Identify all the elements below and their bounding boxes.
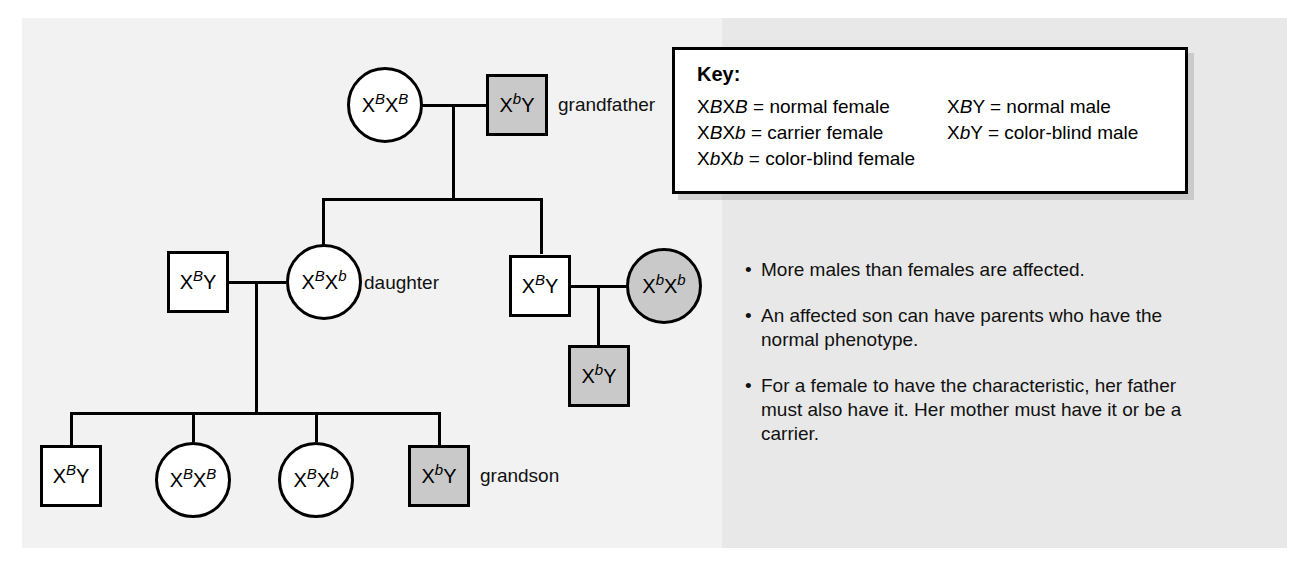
label-daughter: daughter [364, 272, 439, 294]
sibship-drop-g2-daughter [322, 198, 325, 250]
genotype-g2-daughter: XBXb [301, 271, 346, 294]
genotype-g1-grandfather: XbY [499, 94, 534, 117]
key-title: Key: [697, 63, 740, 86]
individual-g3-child-right[interactable]: XbY [568, 345, 630, 407]
bullet-icon: • [745, 374, 752, 398]
individual-g3-child2[interactable]: XBXB [155, 442, 231, 518]
genotype-g3-child4: XbY [421, 465, 456, 488]
genotype-g3-child1: XBY [53, 465, 90, 488]
note-item-1: • More males than females are affected. [745, 258, 1205, 282]
sibship-line-g2 [322, 198, 543, 201]
notes-list: • More males than females are affected. … [745, 258, 1205, 468]
individual-g1-grandfather[interactable]: XbY [486, 74, 548, 136]
genotype-g3-child3: XBXb [293, 469, 338, 492]
sibship-drop-g3-child2 [192, 412, 195, 442]
key-entry-normal-male: XBY = normal male [947, 94, 1138, 120]
individual-g2-daughter-in-law[interactable]: XbXb [626, 248, 702, 324]
note-item-2: • An affected son can have parents who h… [745, 304, 1205, 352]
individual-g2-daughter[interactable]: XBXb [286, 244, 362, 320]
descent-line-g2-right [597, 285, 600, 347]
note-text-1: More males than females are affected. [761, 259, 1085, 280]
sibship-drop-g2-son [540, 198, 543, 254]
descent-line-g1 [452, 104, 455, 200]
individual-g3-child1[interactable]: XBY [40, 445, 102, 507]
descent-line-g2-left [255, 281, 258, 414]
individual-g3-child3[interactable]: XBXb [278, 442, 354, 518]
bullet-icon: • [745, 304, 752, 328]
sibship-drop-g3-child3 [315, 412, 318, 442]
genotype-g3-child-right: XbY [581, 365, 616, 388]
individual-g2-son-in-law[interactable]: XBY [167, 251, 229, 313]
key-column-right: XBY = normal male XbY = color-blind male [947, 94, 1138, 146]
pedigree-figure: XBXB XbY grandfather XBY XBXb daughter X… [0, 0, 1309, 566]
key-entry-normal-female: XBXB = normal female [697, 94, 915, 120]
individual-g1-grandmother[interactable]: XBXB [347, 67, 423, 143]
note-item-3: • For a female to have the characteristi… [745, 374, 1205, 446]
sibship-drop-g3-child1 [70, 412, 73, 446]
genotype-g2-daughter-in-law: XbXb [642, 275, 685, 298]
sibship-drop-g3-child4 [438, 412, 441, 446]
bullet-icon: • [745, 258, 752, 282]
key-box: Key: XBXB = normal female XBXb = carrier… [672, 47, 1188, 194]
key-column-left: XBXB = normal female XBXb = carrier fema… [697, 94, 915, 172]
genotype-g2-son-in-law: XBY [180, 271, 217, 294]
individual-g3-child4[interactable]: XbY [408, 445, 470, 507]
label-grandfather: grandfather [558, 94, 655, 116]
genotype-g2-son: XBY [522, 275, 559, 298]
sibship-line-g3 [70, 412, 441, 415]
note-text-3: For a female to have the characteristic,… [761, 375, 1181, 444]
label-grandson: grandson [480, 465, 559, 487]
genotype-g1-grandmother: XBXB [362, 94, 409, 117]
individual-g2-son[interactable]: XBY [509, 255, 571, 317]
key-entry-carrier-female: XBXb = carrier female [697, 120, 915, 146]
key-entry-colorblind-female: XbXb = color-blind female [697, 146, 915, 172]
note-text-2: An affected son can have parents who hav… [761, 305, 1162, 350]
genotype-g3-child2: XBXB [170, 469, 217, 492]
key-entry-colorblind-male: XbY = color-blind male [947, 120, 1138, 146]
